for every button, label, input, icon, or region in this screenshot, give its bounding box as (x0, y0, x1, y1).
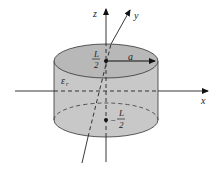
radius-label: a (128, 51, 133, 62)
top-center-point (104, 59, 108, 63)
svg-text:L: L (118, 108, 124, 118)
diagram-canvas: z y x a ε r L 2 − L 2 (0, 0, 216, 173)
svg-text:ε: ε (61, 75, 65, 86)
y-axis-label: y (133, 10, 139, 21)
svg-text:L: L (93, 49, 99, 59)
z-axis-label: z (92, 8, 97, 19)
svg-text:−: − (110, 115, 116, 125)
svg-text:2: 2 (119, 120, 124, 130)
x-axis-label: x (200, 95, 206, 106)
bottom-center-point (104, 118, 108, 122)
svg-text:2: 2 (94, 60, 99, 70)
